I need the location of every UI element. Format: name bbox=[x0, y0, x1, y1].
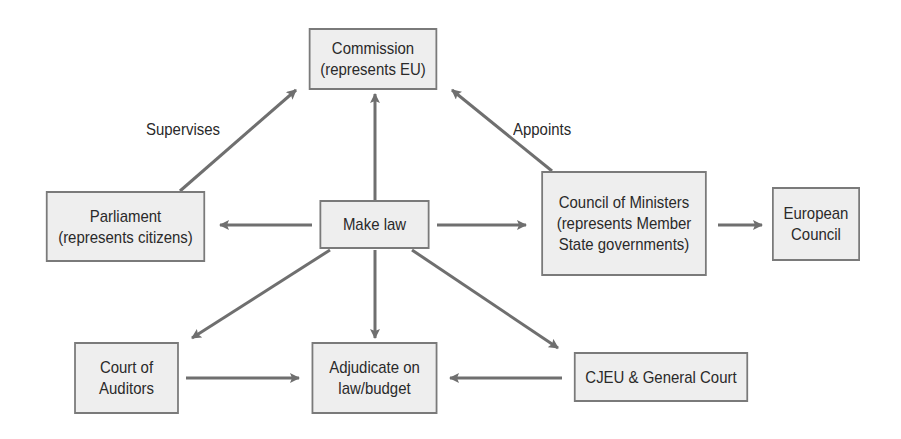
node-label: (represents citizens) bbox=[58, 227, 193, 248]
eu-institutions-diagram: Commission (represents EU) Parliament (r… bbox=[0, 0, 901, 439]
node-european-council: European Council bbox=[772, 187, 860, 261]
node-court-of-auditors: Court of Auditors bbox=[74, 342, 179, 414]
node-label: Council bbox=[784, 224, 849, 245]
node-parliament: Parliament (represents citizens) bbox=[46, 191, 205, 262]
node-make-law: Make law bbox=[320, 200, 430, 249]
node-label: (represents EU) bbox=[320, 59, 426, 80]
arrow-makelaw-to-court-auditors bbox=[192, 250, 330, 338]
node-label: Parliament bbox=[58, 206, 193, 227]
arrow-parliament-to-commission bbox=[180, 90, 296, 191]
node-label: (represents Member bbox=[557, 213, 692, 234]
node-label: State governments) bbox=[557, 234, 692, 255]
node-commission: Commission (represents EU) bbox=[309, 28, 437, 90]
node-label: Make law bbox=[343, 214, 406, 235]
node-label: law/budget bbox=[329, 378, 420, 399]
node-cjeu: CJEU & General Court bbox=[574, 352, 748, 402]
arrow-makelaw-to-cjeu bbox=[412, 250, 558, 348]
node-label: Commission bbox=[320, 38, 426, 59]
node-label: Court of bbox=[99, 357, 154, 378]
node-label: Auditors bbox=[99, 378, 154, 399]
node-adjudicate: Adjudicate on law/budget bbox=[312, 342, 438, 414]
node-label: Council of Ministers bbox=[557, 192, 692, 213]
edge-label-appoints: Appoints bbox=[513, 120, 571, 140]
node-label: CJEU & General Court bbox=[585, 367, 736, 388]
node-label: Adjudicate on bbox=[329, 357, 420, 378]
node-council-of-ministers: Council of Ministers (represents Member … bbox=[541, 171, 706, 276]
node-label: European bbox=[784, 203, 849, 224]
edge-label-supervises: Supervises bbox=[146, 120, 220, 140]
